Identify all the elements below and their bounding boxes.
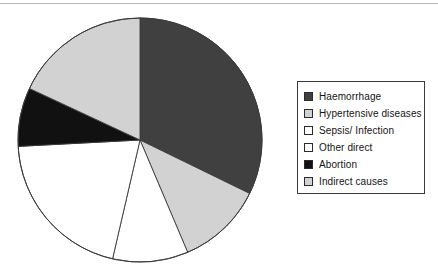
pie-slice-group (18, 18, 262, 262)
legend-label-other-direct: Other direct (319, 142, 372, 153)
legend-label-haemorrhage: Haemorrhage (319, 91, 381, 102)
legend-swatch-icon-indirect-causes (304, 177, 313, 186)
legend-item-other-direct[interactable]: Other direct (304, 139, 424, 156)
legend-item-hypertensive-diseases[interactable]: Hypertensive diseases (304, 105, 424, 122)
legend-swatch-icon-abortion (304, 160, 313, 169)
legend-swatch-icon-sepsis-infection (304, 126, 313, 135)
legend-item-sepsis-infection[interactable]: Sepsis/ Infection (304, 122, 424, 139)
legend-item-indirect-causes[interactable]: Indirect causes (304, 173, 424, 190)
pie-chart-svg (0, 0, 280, 276)
pie-chart-figure: Haemorrhage Hypertensive diseases Sepsis… (0, 0, 438, 276)
legend-label-hypertensive-diseases: Hypertensive diseases (319, 108, 422, 119)
legend-item-haemorrhage[interactable]: Haemorrhage (304, 88, 424, 105)
legend-label-sepsis-infection: Sepsis/ Infection (319, 125, 394, 136)
legend-swatch-icon-other-direct (304, 143, 313, 152)
legend-swatch-icon-haemorrhage (304, 92, 313, 101)
pie-chart-area (0, 0, 280, 276)
legend-swatch-icon-hypertensive-diseases (304, 109, 313, 118)
legend-item-abortion[interactable]: Abortion (304, 156, 424, 173)
chart-legend: Haemorrhage Hypertensive diseases Sepsis… (297, 81, 425, 194)
legend-label-indirect-causes: Indirect causes (319, 176, 388, 187)
legend-label-abortion: Abortion (319, 159, 357, 170)
